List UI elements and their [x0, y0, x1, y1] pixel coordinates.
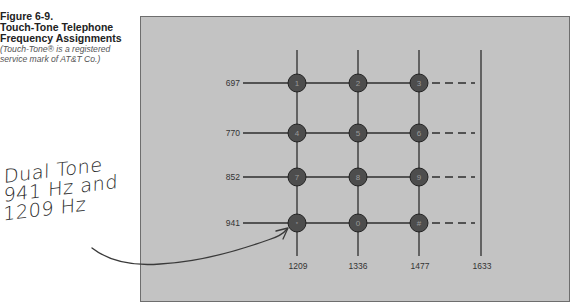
key-hash-label: # — [417, 219, 422, 228]
key-5-label: 5 — [356, 129, 361, 138]
row-label-852: 852 — [226, 172, 240, 182]
column-label-1633: 1633 — [473, 261, 492, 271]
row-label-697: 697 — [226, 78, 240, 88]
key-9-label: 9 — [417, 173, 422, 182]
key-2-label: 2 — [356, 79, 361, 88]
column-label-1477: 1477 — [411, 261, 430, 271]
key-7-label: 7 — [295, 173, 300, 182]
row-label-770: 770 — [226, 128, 240, 138]
frequency-grid-diagram: 1 2 3 4 5 6 7 8 9 * 0 # 697 770 852 941 … — [0, 0, 572, 307]
key-3-label: 3 — [417, 79, 422, 88]
key-8-label: 8 — [356, 173, 361, 182]
key-0-label: 0 — [356, 219, 361, 228]
column-label-1209: 1209 — [289, 261, 308, 271]
row-label-941: 941 — [226, 218, 240, 228]
key-6-label: 6 — [417, 129, 422, 138]
column-label-1336: 1336 — [349, 261, 368, 271]
annotation-arrow — [92, 229, 287, 264]
key-1-label: 1 — [295, 79, 300, 88]
key-4-label: 4 — [295, 129, 300, 138]
